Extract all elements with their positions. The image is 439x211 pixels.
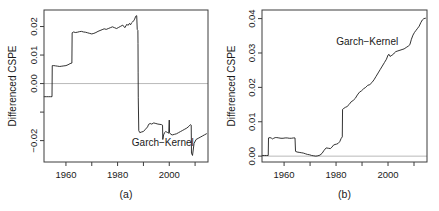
x-tick-label: 2000	[159, 169, 180, 180]
panel-caption: (b)	[338, 188, 351, 200]
series-annotation-label: Garch−Kernel	[132, 137, 194, 148]
y-tick-label: −0.02	[28, 129, 39, 153]
x-tick-label: 2000	[377, 169, 398, 180]
data-series-line	[44, 16, 206, 156]
y-tick-label: 0.00	[246, 147, 257, 166]
series-annotation-label: Garch−Kernel	[336, 36, 398, 47]
y-tick-label: 0.00	[28, 74, 39, 93]
chart-panel-a: −0.020.000.010.02196019802000Differenced…	[0, 0, 220, 211]
x-tick-label: 1980	[107, 169, 128, 180]
x-tick-label: 1980	[325, 169, 346, 180]
plot-frame	[262, 10, 427, 162]
panel-caption: (a)	[120, 188, 133, 200]
chart-svg-a: −0.020.000.010.02196019802000Differenced…	[0, 0, 220, 211]
y-tick-label: 0.02	[246, 78, 257, 97]
y-axis-title: Differenced CSPE	[7, 45, 18, 126]
x-tick-label: 1960	[274, 169, 295, 180]
x-tick-label: 1960	[55, 169, 76, 180]
y-axis-title: Differenced CSPE	[226, 45, 237, 126]
y-tick-label: 0.02	[28, 17, 39, 35]
y-tick-label: 0.04	[246, 9, 257, 28]
y-tick-label: 0.01	[246, 113, 257, 132]
figure-container: −0.020.000.010.02196019802000Differenced…	[0, 0, 439, 211]
chart-svg-b: 0.000.010.020.030.04196019802000Differen…	[219, 0, 439, 211]
y-tick-label: 0.03	[246, 44, 257, 63]
chart-panel-b: 0.000.010.020.030.04196019802000Differen…	[219, 0, 439, 211]
y-tick-label: 0.01	[28, 46, 39, 65]
